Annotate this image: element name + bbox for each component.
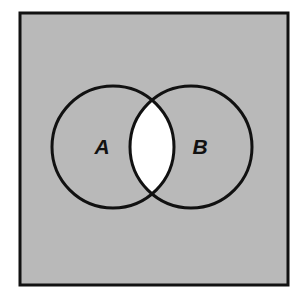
venn-diagram-svg: A B <box>0 0 300 300</box>
set-a-label: A <box>93 135 109 158</box>
venn-diagram-figure: A B <box>0 0 300 300</box>
set-b-label: B <box>192 135 207 158</box>
